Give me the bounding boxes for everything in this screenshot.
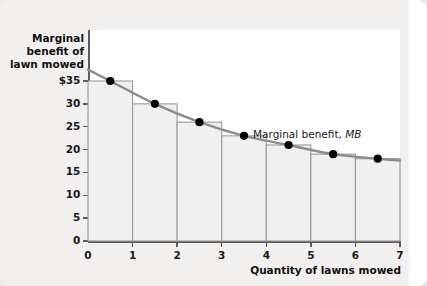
data-point	[329, 150, 337, 158]
bar	[133, 104, 178, 241]
curve-label-text: Marginal benefit,	[253, 128, 345, 140]
data-point	[240, 132, 248, 140]
data-point	[284, 141, 292, 149]
figure-card: Marginal benefit of lawn mowed $35302520…	[0, 0, 427, 286]
curve-label: Marginal benefit, MB	[253, 128, 361, 140]
x-axis-title: Quantity of lawns mowed	[196, 264, 401, 276]
data-point	[151, 100, 159, 108]
curve-label-symbol: MB	[345, 128, 361, 140]
bar	[88, 81, 133, 241]
bar	[177, 122, 222, 241]
data-point	[195, 118, 203, 126]
data-point	[374, 155, 382, 163]
data-point	[106, 77, 114, 85]
bar	[355, 159, 400, 241]
bar	[311, 154, 356, 241]
chart-figure: Marginal benefit of lawn mowed $35302520…	[0, 0, 409, 286]
bar	[222, 136, 267, 241]
bar	[266, 145, 311, 241]
chart-graphics	[0, 0, 409, 286]
bar-group	[88, 81, 400, 241]
